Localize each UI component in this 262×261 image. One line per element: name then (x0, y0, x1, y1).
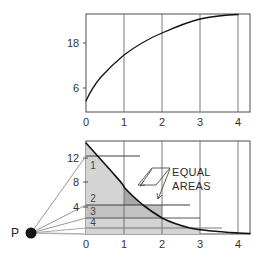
top-panel: 18 6 0 1 2 3 4 (67, 14, 250, 128)
top-xlabel-4: 4 (235, 116, 241, 128)
top-xlabel-3: 3 (197, 116, 203, 128)
top-xlabel-2: 2 (159, 116, 165, 128)
bottom-xlabel-4: 4 (235, 238, 241, 250)
inner-level-label-1: 1 (90, 160, 96, 171)
top-ylabel-6: 6 (73, 82, 79, 94)
equal-areas-line1: EQUAL (172, 166, 211, 178)
point-p-marker (26, 228, 37, 239)
inner-level-label-4: 4 (90, 217, 96, 228)
bottom-ylabel-4: 4 (73, 201, 79, 213)
inner-level-label-3: 3 (90, 206, 96, 217)
figure-svg: 18 6 0 1 2 3 4 (0, 0, 262, 261)
ray-baseline (31, 233, 86, 234)
top-xlabel-0: 0 (83, 116, 89, 128)
ray-level-1 (31, 156, 86, 233)
bottom-xlabel-0: 0 (83, 238, 89, 250)
point-p-label: P (11, 226, 19, 240)
figure-container: 18 6 0 1 2 3 4 (0, 0, 262, 261)
top-panel-frame (86, 14, 250, 112)
top-xlabel-1: 1 (121, 116, 127, 128)
top-ylabel-18: 18 (67, 37, 79, 49)
bottom-xlabel-2: 2 (159, 238, 165, 250)
bottom-ylabel-12: 12 (67, 152, 79, 164)
bottom-xlabel-3: 3 (197, 238, 203, 250)
bottom-xlabel-1: 1 (121, 238, 127, 250)
equal-areas-line2: AREAS (172, 180, 211, 192)
inner-level-label-2: 2 (90, 193, 96, 204)
bottom-ylabel-8: 8 (73, 176, 79, 188)
